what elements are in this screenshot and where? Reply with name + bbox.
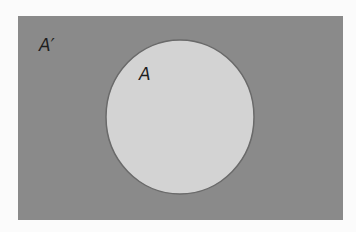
venn-diagram: A′ A [0,0,356,232]
set-a-circle [106,40,254,194]
complement-label: A′ [38,35,55,55]
set-a-label: A [138,64,151,84]
